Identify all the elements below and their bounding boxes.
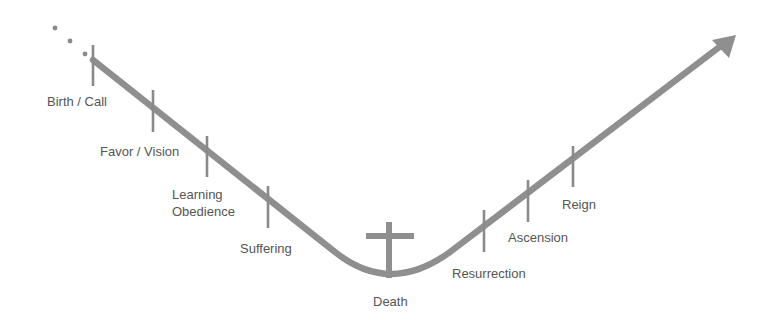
label-ascension: Ascension xyxy=(508,229,568,246)
journey-curve xyxy=(93,45,722,274)
label-suffering: Suffering xyxy=(240,240,292,257)
v-curve-diagram xyxy=(0,0,771,327)
label-reign: Reign xyxy=(562,196,596,213)
label-learning: Learning xyxy=(172,186,235,203)
ellipsis-dots-icon xyxy=(53,26,88,57)
label-learning-obedience: Learning Obedience xyxy=(172,186,235,220)
label-favor-vision: Favor / Vision xyxy=(100,143,179,160)
label-death: Death xyxy=(373,293,408,310)
label-birth-call: Birth / Call xyxy=(47,93,107,110)
label-resurrection: Resurrection xyxy=(452,265,526,282)
label-obedience: Obedience xyxy=(172,203,235,220)
